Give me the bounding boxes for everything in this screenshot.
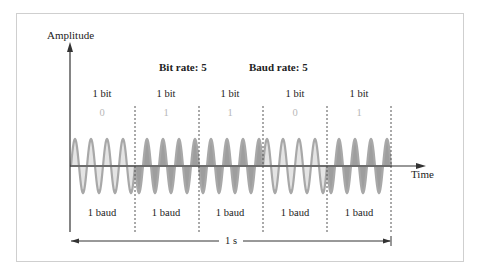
wave-lobe — [167, 166, 175, 193]
wave-lobe — [351, 139, 359, 166]
wave-lobe — [191, 139, 199, 166]
wave-lobe — [383, 139, 391, 166]
segment-4-bit-label: 1 bit — [286, 89, 305, 100]
wave-lobe — [183, 166, 191, 193]
wave-lobe — [295, 139, 303, 166]
wave-lobe — [71, 139, 79, 166]
wave-lobe — [151, 166, 159, 193]
wave-lobe — [231, 166, 239, 193]
wave-lobe — [207, 139, 215, 166]
wave-lobe — [79, 166, 87, 193]
segment-1-baud-label: 1 baud — [88, 208, 116, 219]
wave-lobe — [279, 139, 287, 166]
wave-lobe — [311, 139, 319, 166]
wave-lobe — [95, 166, 103, 193]
wave-lobe — [223, 139, 231, 166]
baud-rate-label: Baud rate: 5 — [249, 62, 308, 73]
wave-lobe — [119, 139, 127, 166]
duration-arrow-left-icon — [71, 239, 79, 244]
segment-2-bit-label: 1 bit — [157, 89, 176, 100]
segment-3-bit-value: 1 — [227, 108, 232, 119]
y-axis-label: Amplitude — [47, 30, 94, 41]
wave-lobe — [143, 139, 151, 166]
wave-lobe — [103, 139, 111, 166]
wave-lobe — [319, 166, 327, 193]
segment-2-baud-label: 1 baud — [152, 208, 180, 219]
duration-arrow-right-icon — [383, 239, 391, 244]
segment-2-bit-value: 1 — [163, 108, 168, 119]
segment-4-baud-label: 1 baud — [281, 208, 309, 219]
segment-5-bit-value: 1 — [356, 108, 361, 119]
wave-lobe — [327, 166, 335, 193]
wave-lobe — [367, 139, 375, 166]
wave-lobe — [263, 139, 271, 166]
bpsk-signal-diagram — [0, 0, 483, 277]
wave-lobe — [111, 166, 119, 193]
segment-3-bit-label: 1 bit — [221, 89, 240, 100]
wave-lobe — [135, 166, 143, 193]
wave-lobe — [343, 166, 351, 193]
wave-lobe — [271, 166, 279, 193]
wave-lobe — [215, 166, 223, 193]
wave-lobe — [87, 139, 95, 166]
wave-lobe — [239, 139, 247, 166]
wave-lobe — [159, 139, 167, 166]
wave-lobe — [127, 166, 135, 193]
wave-lobe — [287, 166, 295, 193]
segment-5-baud-label: 1 baud — [345, 208, 373, 219]
amplitude-axis-arrow-icon — [67, 42, 73, 52]
wave-lobe — [255, 139, 263, 166]
wave-lobe — [303, 166, 311, 193]
wave-lobe — [175, 139, 183, 166]
wave-lobe — [359, 166, 367, 193]
x-axis-label: Time — [411, 169, 434, 180]
duration-label: 1 s — [222, 236, 240, 247]
wave-lobe — [335, 139, 343, 166]
segment-3-baud-label: 1 baud — [216, 208, 244, 219]
bit-rate-label: Bit rate: 5 — [159, 62, 207, 73]
wave-lobe — [199, 166, 207, 193]
wave-lobe — [375, 166, 383, 193]
segment-5-bit-label: 1 bit — [350, 89, 369, 100]
segment-1-bit-value: 0 — [99, 108, 104, 119]
segment-1-bit-label: 1 bit — [93, 89, 112, 100]
wave-lobe — [247, 166, 255, 193]
segment-4-bit-value: 0 — [292, 108, 297, 119]
